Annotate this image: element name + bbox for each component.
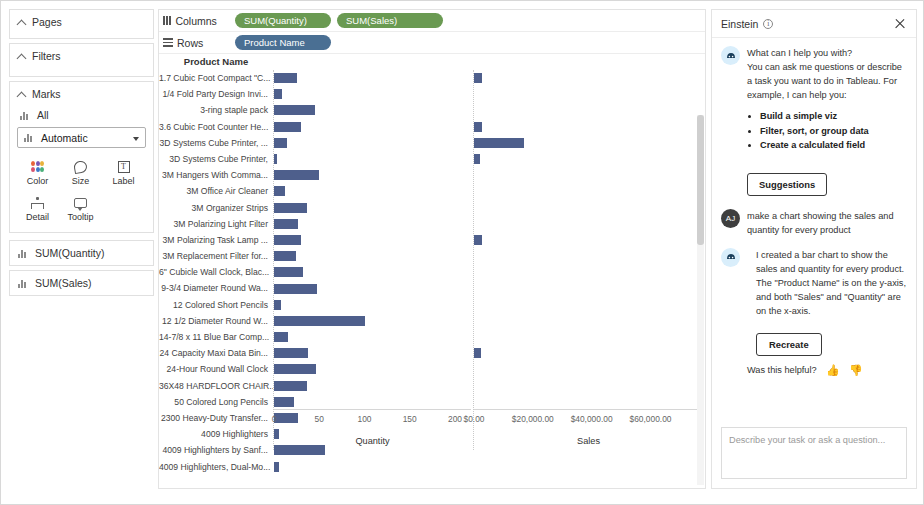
marks-tooltip-label: Tooltip [67,212,93,222]
pill-sum-sales[interactable]: SUM(Sales) [337,13,443,28]
bar[interactable] [274,122,301,132]
measure-pill-sales[interactable]: SUM(Sales) [9,270,154,296]
bar[interactable] [274,284,317,294]
bar[interactable] [274,219,298,229]
axis-tick-label: 50 [315,414,324,424]
bar[interactable] [274,316,365,326]
quantity-axis-title: Quantity [274,436,471,446]
feedback-label: Was this helpful? [747,365,817,375]
bar-row [274,378,471,394]
bar[interactable] [274,300,281,310]
bar[interactable] [274,462,279,472]
thumbs-down-icon[interactable]: 👎 [849,365,863,376]
row-label: 4009 Highlighters [159,426,273,442]
marks-detail-button[interactable]: Detail [16,190,59,226]
quantity-axis-line [274,409,471,410]
thumbs-up-icon[interactable]: 👍 [826,365,840,376]
bar[interactable] [274,138,287,148]
bar[interactable] [474,73,482,83]
marks-button-grid: Color Size T Label Detail Tooltip [10,154,153,226]
bar-row [274,135,471,151]
bar[interactable] [274,251,296,261]
row-label: 3D Systems Cube Printer, [159,151,273,167]
bar[interactable] [274,154,277,164]
row-label: 3-ring staple pack [159,102,273,118]
close-icon[interactable] [893,17,907,31]
bar[interactable] [274,235,301,245]
row-label: 3M Office Air Cleaner [159,183,273,199]
rows-icon [163,38,173,46]
left-sidebar: Pages Filters Marks All Automatic [9,9,154,489]
marks-card-header[interactable]: Marks [10,82,153,106]
bot-welcome-message: What can I help you with? You can ask me… [721,46,907,153]
bar[interactable] [274,364,316,374]
measure-label-sales: SUM(Sales) [35,277,92,289]
columns-icon [163,16,171,25]
bar-chart-icon [18,249,29,258]
bar[interactable] [274,267,303,277]
marks-detail-label: Detail [26,212,49,222]
bar[interactable] [474,122,482,132]
row-label: 4009 Highlighters by Sanf... [159,442,273,458]
mark-type-select[interactable]: Automatic [17,127,146,148]
rows-label-text: Rows [177,37,203,49]
viz-vertical-scrollbar[interactable] [697,115,704,485]
bar-row [274,394,471,410]
bar[interactable] [474,154,480,164]
einstein-input[interactable]: Describe your task or ask a question... [721,427,907,479]
bar-row [274,200,471,216]
row-label: 12 1/2 Diameter Round W... [159,313,273,329]
suggestions-button[interactable]: Suggestions [747,173,827,196]
einstein-title: Einstein [721,18,758,30]
einstein-header: Einstein i [712,10,916,38]
bar-row [474,167,703,183]
bot-response-message: I created a bar chart to show the sales … [721,248,907,318]
bar[interactable] [274,170,319,180]
einstein-panel: Einstein i What can I help you with? You… [711,9,917,489]
marks-color-button[interactable]: Color [16,154,59,190]
columns-label-text: Columns [175,15,216,27]
bar[interactable] [274,381,307,391]
info-icon[interactable]: i [763,19,773,29]
bar[interactable] [274,105,315,115]
bar[interactable] [474,138,524,148]
bar[interactable] [474,348,481,358]
color-palette-icon [31,159,44,174]
pill-sum-quantity[interactable]: SUM(Quantity) [235,13,331,28]
measure-pill-quantity[interactable]: SUM(Quantity) [9,240,154,266]
recreate-button[interactable]: Recreate [756,333,822,356]
pill-product-name[interactable]: Product Name [235,35,331,50]
bar-row [474,70,703,86]
marks-tooltip-button[interactable]: Tooltip [59,190,102,226]
sales-axis-title: Sales [474,436,703,446]
bar-row [474,183,703,199]
pages-label: Pages [32,16,62,28]
bar[interactable] [274,186,285,196]
bar[interactable] [274,203,307,213]
bar[interactable] [274,397,294,407]
bar-row [274,183,471,199]
marks-size-button[interactable]: Size [59,154,102,190]
bar[interactable] [274,73,297,83]
rows-shelf-label: Rows [163,37,229,49]
bar[interactable] [474,235,482,245]
chevron-up-icon [18,18,26,26]
bar[interactable] [274,348,308,358]
chevron-down-icon [133,137,139,141]
bar-row [274,329,471,345]
marks-all-row[interactable]: All [10,106,153,124]
bar-row [474,86,703,102]
scrollbar-thumb[interactable] [697,115,704,245]
chevron-up-icon [18,90,26,98]
filters-card-header[interactable]: Filters [10,44,153,68]
bar[interactable] [274,89,282,99]
columns-shelf[interactable]: Columns SUM(Quantity) SUM(Sales) [159,10,705,32]
row-label-column: 1.7 Cubic Foot Compact "C...1/4 Fold Par… [159,70,273,475]
axis-tick-label: 200 [448,414,462,424]
rows-shelf[interactable]: Rows Product Name [159,32,705,54]
pages-card-header[interactable]: Pages [10,10,153,34]
marks-label-button[interactable]: T Label [102,154,145,190]
bar[interactable] [274,332,288,342]
bar[interactable] [274,445,325,455]
row-label: 3D Systems Cube Printer, ... [159,135,273,151]
